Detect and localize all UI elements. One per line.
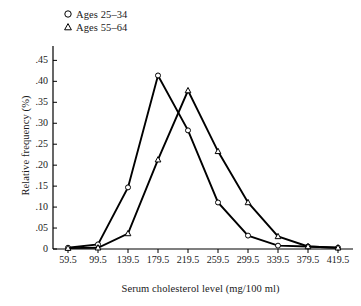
chart-series-group [65,73,341,250]
series-line [68,75,338,247]
chart-series-1 [66,73,341,250]
y-axis-title: Relative frequency (%) [20,56,31,236]
circle-marker-icon [246,233,251,238]
circle-marker-icon [156,73,161,78]
circle-marker-icon [216,200,221,205]
x-axis-title: Serum cholesterol level (mg/100 ml) [40,283,361,294]
circle-marker-icon [276,243,281,248]
triangle-marker-icon [125,230,131,235]
circle-marker-icon [126,185,131,190]
chart-figure: Ages 25–34 Ages 55–64 0.05.10.15.20.25.3… [0,0,361,306]
chart-series-2 [65,87,341,250]
y-axis-tick-label: 0 [22,244,48,254]
x-axis-tick-label: 419.5 [318,254,358,265]
triangle-marker-icon [185,87,191,92]
chart-axes [53,46,353,253]
circle-marker-icon [186,128,191,133]
